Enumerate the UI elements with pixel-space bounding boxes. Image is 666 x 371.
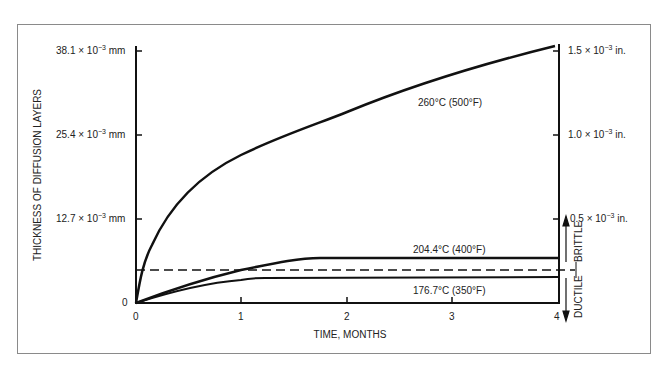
x-tick-label-3: 3 xyxy=(449,311,455,322)
y-right-tick-label-1.5: 1.5 × 10−3 in. xyxy=(568,44,626,56)
brittle-ductile-arrows xyxy=(563,216,569,321)
brittle-label: BRITTLE xyxy=(573,221,584,262)
x-tick-label-1: 1 xyxy=(238,311,244,322)
series-label-176C: 176.7°C (350°F) xyxy=(413,285,485,296)
x-axis-title: TIME, MONTHS xyxy=(314,329,387,340)
y-tick-label-0: 0 xyxy=(122,297,128,308)
y-tick-label-12: 12.7 × 10−3 mm xyxy=(56,212,125,224)
x-tick-label-2: 2 xyxy=(344,311,350,322)
y-right-tick-label-1.0: 1.0 × 10−3 in. xyxy=(568,128,626,140)
y-tick-label-38: 38.1 × 10−3 mm xyxy=(56,44,125,56)
y-tick-label-25: 25.4 × 10−3 mm xyxy=(56,128,125,140)
x-tick-label-4: 4 xyxy=(554,311,560,322)
x-tick-label-0: 0 xyxy=(133,311,139,322)
series-label-204C: 204.4°C (400°F) xyxy=(413,244,485,255)
curve-260C xyxy=(136,46,555,303)
curve-204C xyxy=(136,258,559,303)
y-axis-title: THICKNESS OF DIFFUSION LAYERS xyxy=(32,89,43,261)
ductile-label: DUCTILE xyxy=(573,275,584,318)
diffusion-chart: 38.1 × 10−3 mm 25.4 × 10−3 mm 12.7 × 10−… xyxy=(0,0,666,371)
series-label-260C: 260°C (500°F) xyxy=(418,97,482,108)
